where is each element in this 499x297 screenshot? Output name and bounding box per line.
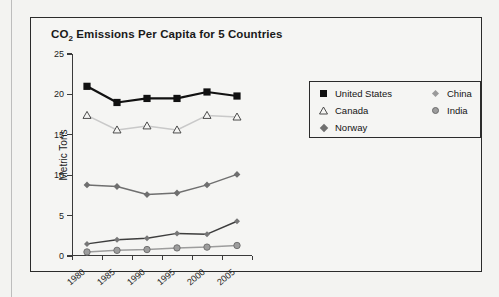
legend-label: Canada xyxy=(335,105,368,116)
series-norway xyxy=(84,171,241,198)
data-point xyxy=(84,241,90,247)
data-point xyxy=(234,242,240,248)
legend-item-china[interactable]: China xyxy=(430,88,472,99)
legend-item-united-states[interactable]: United States xyxy=(318,88,392,99)
legend-label: Norway xyxy=(335,122,367,133)
data-point xyxy=(173,95,180,102)
x-tick-label-1990: 1990 xyxy=(125,267,147,288)
chart-title: CO2 Emissions Per Capita for 5 Countries xyxy=(51,28,283,43)
data-point xyxy=(204,181,211,188)
data-point xyxy=(144,235,150,241)
filled-square-icon xyxy=(318,88,329,99)
diamond-icon xyxy=(318,122,329,133)
x-tick-label-1985: 1985 xyxy=(95,267,117,288)
chart-legend: United StatesCanadaNorwayChinaIndia xyxy=(309,81,481,138)
data-point xyxy=(84,249,90,255)
y-tick-label-15: 15 xyxy=(54,130,64,140)
series-layer xyxy=(72,54,252,256)
data-point xyxy=(83,83,90,90)
legend-label: India xyxy=(447,105,468,116)
figure-frame: CO2 Emissions Per Capita for 5 Countries… xyxy=(30,17,482,272)
series-united-states xyxy=(83,83,240,106)
y-tick-label-5: 5 xyxy=(59,211,64,221)
data-point xyxy=(144,191,151,198)
data-point xyxy=(143,122,151,129)
legend-item-norway[interactable]: Norway xyxy=(318,122,367,133)
x-tick-3 xyxy=(162,256,163,260)
legend-label: China xyxy=(447,88,472,99)
data-point xyxy=(84,181,91,188)
y-tick-label-10: 10 xyxy=(54,170,64,180)
data-point xyxy=(114,237,120,243)
y-tick-label-0: 0 xyxy=(59,251,64,261)
data-point xyxy=(113,99,120,106)
data-point xyxy=(233,92,240,99)
small-diamond-icon xyxy=(430,88,441,99)
data-point xyxy=(234,218,240,224)
data-point xyxy=(174,245,180,251)
data-point xyxy=(234,171,241,178)
series-canada xyxy=(83,111,241,133)
x-tick-2 xyxy=(132,256,133,260)
legend-item-canada[interactable]: Canada xyxy=(318,105,368,116)
data-point xyxy=(83,111,91,118)
legend-items: United StatesCanadaNorwayChinaIndia xyxy=(318,88,476,133)
data-point xyxy=(204,231,210,237)
data-point xyxy=(204,244,210,250)
x-tick-1 xyxy=(102,256,103,260)
series-china xyxy=(84,218,240,247)
x-tick-4 xyxy=(192,256,193,260)
legend-label: United States xyxy=(335,88,392,99)
x-tick-label-2005: 2005 xyxy=(215,267,237,288)
data-point xyxy=(174,230,180,236)
data-point xyxy=(174,190,181,197)
data-point xyxy=(203,88,210,95)
data-point xyxy=(144,246,150,252)
x-tick-6 xyxy=(252,256,253,260)
x-tick-label-2000: 2000 xyxy=(185,267,207,288)
y-tick-label-20: 20 xyxy=(54,89,64,99)
chart-title-main: CO xyxy=(51,28,68,40)
x-tick-label-1980: 1980 xyxy=(65,267,87,288)
x-tick-5 xyxy=(222,256,223,260)
chart-title-rest: Emissions Per Capita for 5 Countries xyxy=(73,28,282,40)
plot-area: Metric Tons 0510152025 19801985199019952… xyxy=(72,54,252,256)
y-tick-label-25: 25 xyxy=(54,49,64,59)
page-left-rule xyxy=(11,0,12,297)
legend-item-india[interactable]: India xyxy=(430,105,468,116)
open-triangle-icon xyxy=(318,105,329,116)
data-point xyxy=(114,247,120,253)
page-canvas: CO2 Emissions Per Capita for 5 Countries… xyxy=(0,0,499,297)
series-india xyxy=(84,242,240,255)
x-tick-label-1995: 1995 xyxy=(155,267,177,288)
x-tick-0 xyxy=(72,256,73,260)
data-point xyxy=(114,183,121,190)
circle-icon xyxy=(430,105,441,116)
data-point xyxy=(143,95,150,102)
